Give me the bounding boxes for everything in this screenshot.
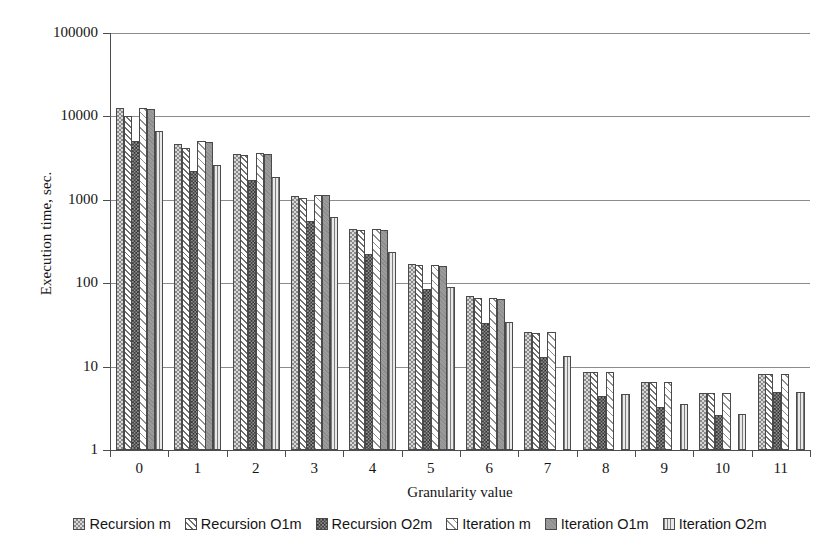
- legend-label: Recursion m: [89, 516, 170, 532]
- x-tick-label: 7: [518, 460, 576, 477]
- bar-group: [116, 33, 163, 450]
- bars-layer: [110, 33, 810, 450]
- y-tick-label: 100000: [53, 25, 98, 40]
- legend-item[interactable]: Iteration O2m: [663, 516, 767, 532]
- x-tick-mark: [693, 450, 694, 457]
- x-tick-mark: [577, 450, 578, 457]
- legend-swatch-icon: [316, 518, 328, 530]
- x-tick-label: 3: [285, 460, 343, 477]
- x-tick-label: 5: [402, 460, 460, 477]
- legend-label: Iteration O2m: [679, 516, 767, 532]
- x-tick-label: 1: [168, 460, 226, 477]
- legend-swatch-icon: [185, 518, 197, 530]
- y-tick-label: 1: [91, 442, 99, 457]
- bar-chart: Execution time, sec. 1000001000010001001…: [0, 0, 840, 547]
- legend-label: Iteration O1m: [561, 516, 649, 532]
- x-tick-mark: [285, 450, 286, 457]
- x-tick-label: 2: [227, 460, 285, 477]
- x-tick-mark: [752, 450, 753, 457]
- bar: [563, 356, 571, 450]
- x-axis-tick-labels: 01234567891011: [110, 460, 810, 484]
- x-tick-mark: [810, 450, 811, 457]
- x-tick-label: 6: [460, 460, 518, 477]
- x-tick-mark: [168, 450, 169, 457]
- legend-item[interactable]: Recursion O2m: [316, 516, 433, 532]
- bar: [738, 414, 746, 450]
- bar: [388, 252, 396, 451]
- bar-group: [174, 33, 221, 450]
- y-tick-label: 100: [76, 275, 99, 290]
- bar-group: [641, 33, 688, 450]
- bar-group: [291, 33, 338, 450]
- chart-legend: Recursion mRecursion O1mRecursion O2mIte…: [0, 516, 840, 532]
- x-axis-title: Granularity value: [110, 484, 810, 501]
- y-tick-label: 10000: [61, 108, 99, 123]
- x-tick-mark: [460, 450, 461, 457]
- legend-label: Recursion O2m: [332, 516, 433, 532]
- y-tick-mark: [103, 33, 111, 34]
- legend-label: Recursion O1m: [201, 516, 302, 532]
- x-tick-label: 4: [343, 460, 401, 477]
- y-tick-label: 10: [83, 359, 98, 374]
- x-tick-label: 11: [752, 460, 810, 477]
- bar: [271, 177, 279, 450]
- bar: [330, 217, 338, 450]
- bar: [796, 392, 804, 450]
- legend-item[interactable]: Recursion O1m: [185, 516, 302, 532]
- bar: [213, 165, 221, 450]
- bar: [664, 382, 672, 450]
- x-tick-label: 0: [110, 460, 168, 477]
- bar: [680, 404, 688, 450]
- y-axis-tick-labels: 100000100001000100101: [0, 0, 98, 547]
- x-tick-mark: [402, 450, 403, 457]
- x-tick-mark: [343, 450, 344, 457]
- bar: [621, 394, 629, 450]
- x-tick-mark: [227, 450, 228, 457]
- bar: [505, 322, 513, 450]
- bar-group: [583, 33, 630, 450]
- legend-swatch-icon: [663, 518, 675, 530]
- x-tick-label: 9: [635, 460, 693, 477]
- bar-group: [233, 33, 280, 450]
- y-tick-mark: [103, 116, 111, 117]
- bar-group: [466, 33, 513, 450]
- bar-group: [524, 33, 571, 450]
- bar: [547, 332, 555, 450]
- x-tick-mark: [518, 450, 519, 457]
- bar: [781, 374, 789, 450]
- bar: [722, 393, 730, 450]
- bar-group: [408, 33, 455, 450]
- legend-swatch-icon: [446, 518, 458, 530]
- bar-group: [349, 33, 396, 450]
- legend-item[interactable]: Iteration m: [446, 516, 531, 532]
- y-tick-mark: [103, 283, 111, 284]
- x-tick-label: 10: [693, 460, 751, 477]
- legend-item[interactable]: Recursion m: [73, 516, 170, 532]
- y-tick-mark: [103, 200, 111, 201]
- legend-label: Iteration m: [462, 516, 531, 532]
- legend-swatch-icon: [73, 518, 85, 530]
- bar: [606, 372, 614, 450]
- legend-swatch-icon: [545, 518, 557, 530]
- x-tick-label: 8: [577, 460, 635, 477]
- x-tick-mark: [635, 450, 636, 457]
- bar: [446, 287, 454, 450]
- bar-group: [699, 33, 746, 450]
- bar-group: [758, 33, 805, 450]
- x-tick-mark: [110, 450, 111, 457]
- legend-item[interactable]: Iteration O1m: [545, 516, 649, 532]
- y-tick-mark: [103, 367, 111, 368]
- y-tick-label: 1000: [68, 192, 98, 207]
- bar: [155, 131, 163, 450]
